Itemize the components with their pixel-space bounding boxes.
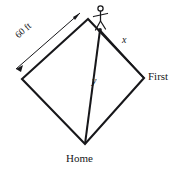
label-y: y (92, 76, 96, 86)
label-x: x (122, 35, 126, 45)
label-home-plate: Home (66, 153, 93, 164)
runner-position-marker (98, 28, 102, 32)
label-first-base: First (148, 71, 168, 82)
arrow-head-icon (73, 13, 80, 20)
diagram-canvas: 60 ft x y First Home (0, 0, 182, 175)
segment-y-line (85, 30, 100, 144)
